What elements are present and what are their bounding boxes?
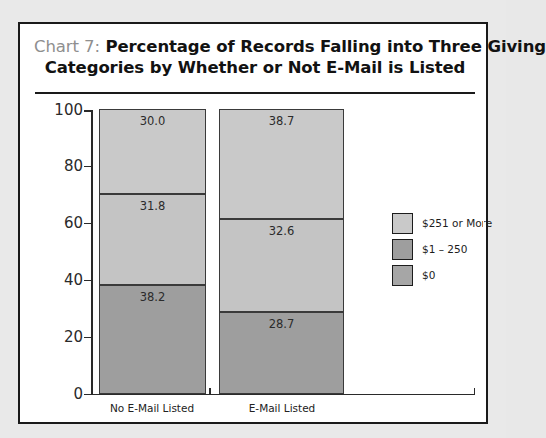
legend-swatch-icon bbox=[392, 265, 413, 286]
x-axis-category-email-listed: E-Mail Listed bbox=[217, 402, 347, 414]
bar-segment-label: 30.0 bbox=[100, 114, 205, 128]
bar-segment-label: 38.7 bbox=[220, 114, 343, 128]
y-axis-tick-80 bbox=[84, 166, 91, 168]
y-axis-line bbox=[91, 110, 93, 395]
bar-segment-0-dollar[interactable]: 28.7 bbox=[219, 312, 344, 394]
y-axis-label-20: 20 bbox=[37, 328, 83, 346]
chart-title-line-1: Chart 7: Percentage of Records Falling i… bbox=[34, 36, 476, 57]
legend-item-0-dollar[interactable]: $0 bbox=[392, 262, 510, 288]
legend-swatch-icon bbox=[392, 213, 413, 234]
bar-segment-label: 31.8 bbox=[100, 199, 205, 213]
x-axis-category-no-email-listed: No E-Mail Listed bbox=[93, 402, 211, 414]
bar-segment-label: 28.7 bbox=[220, 317, 343, 331]
bar-segment-1-250[interactable]: 31.8 bbox=[99, 194, 206, 285]
legend-swatch-icon bbox=[392, 239, 413, 260]
x-axis-line bbox=[91, 394, 475, 396]
legend-item-1-250[interactable]: $1 – 250 bbox=[392, 236, 510, 262]
bar-segment-251-or-more[interactable]: 38.7 bbox=[219, 109, 344, 219]
bar-email-listed[interactable]: 28.7 32.6 38.7 bbox=[219, 109, 344, 394]
bar-segment-label: 38.2 bbox=[100, 290, 205, 304]
title-separator-rule bbox=[35, 92, 475, 94]
y-axis-label-100: 100 bbox=[37, 101, 83, 119]
bar-no-email-listed[interactable]: 38.2 31.8 30.0 bbox=[99, 109, 206, 394]
legend-item-251-or-more[interactable]: $251 or More bbox=[392, 210, 510, 236]
legend-label: $1 – 250 bbox=[422, 243, 467, 255]
legend-label: $251 or More bbox=[422, 217, 492, 229]
chart-frame: Chart 7: Percentage of Records Falling i… bbox=[18, 22, 488, 424]
chart-title-line-1-rest: Percentage of Records Falling into Three… bbox=[100, 37, 546, 56]
y-axis-tick-100 bbox=[84, 110, 91, 112]
chart-title-prefix: Chart 7: bbox=[34, 37, 100, 56]
bar-segment-0-dollar[interactable]: 38.2 bbox=[99, 285, 206, 394]
y-axis-label-0: 0 bbox=[37, 385, 83, 403]
bar-segment-1-250[interactable]: 32.6 bbox=[219, 219, 344, 312]
y-axis-label-80: 80 bbox=[37, 157, 83, 175]
chart-legend: $251 or More $1 – 250 $0 bbox=[392, 210, 510, 288]
y-axis-tick-0 bbox=[84, 394, 91, 396]
bar-segment-label: 32.6 bbox=[220, 224, 343, 238]
x-axis-tick-right bbox=[474, 388, 476, 395]
y-axis-label-60: 60 bbox=[37, 214, 83, 232]
chart-title-line-2: Categories by Whether or Not E-Mail is L… bbox=[34, 57, 476, 78]
y-axis-tick-20 bbox=[84, 337, 91, 339]
chart-title: Chart 7: Percentage of Records Falling i… bbox=[34, 36, 476, 78]
x-axis-tick-middle bbox=[209, 388, 211, 395]
legend-label: $0 bbox=[422, 269, 435, 281]
y-axis-tick-40 bbox=[84, 280, 91, 282]
y-axis-label-40: 40 bbox=[37, 271, 83, 289]
y-axis-tick-60 bbox=[84, 223, 91, 225]
bar-segment-251-or-more[interactable]: 30.0 bbox=[99, 109, 206, 195]
